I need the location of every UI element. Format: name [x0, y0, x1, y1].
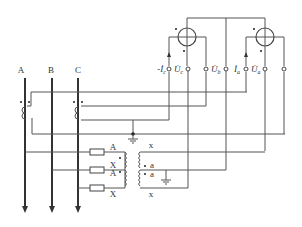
- ct-ground: [128, 120, 138, 143]
- bus-label-c: C: [75, 65, 81, 75]
- label-ub: U̇b: [211, 64, 221, 75]
- fuse-icon: [90, 149, 104, 155]
- pt-label-a1: A: [110, 142, 117, 152]
- terminal-block: [167, 67, 286, 71]
- fuse-icon: [90, 167, 104, 173]
- pt-label-sec-x2: x: [149, 189, 154, 199]
- fuse-icon: [90, 185, 104, 191]
- ct-phase-a: [20, 92, 300, 134]
- bus-a: [22, 78, 28, 213]
- pt-secondary-coil: [139, 152, 266, 188]
- bus-b: [49, 78, 55, 213]
- ct-phase-c: [73, 101, 206, 120]
- current-arrow-icon: [167, 52, 171, 57]
- pt-label-sec-a2: a: [150, 169, 154, 179]
- wattmeter-2: [244, 18, 284, 66]
- bus-label-a: A: [18, 65, 25, 75]
- pt-label-x2: X: [110, 189, 117, 199]
- pt-label-a2: A: [110, 168, 117, 178]
- wiring-diagram: A B C: [0, 0, 302, 227]
- label-ia: İa: [233, 64, 240, 75]
- pt-secondary-ground: [161, 170, 171, 184]
- label-uc: U̇c: [174, 64, 184, 75]
- label-ua: U̇a: [251, 64, 261, 75]
- bus-c: [75, 78, 81, 213]
- pt-label-sec-x1: x: [149, 140, 154, 150]
- wattmeter-1: [167, 18, 206, 66]
- label-neg-ic: -İc: [157, 64, 166, 75]
- bus-label-b: B: [48, 65, 54, 75]
- current-arrow-icon: [244, 52, 248, 57]
